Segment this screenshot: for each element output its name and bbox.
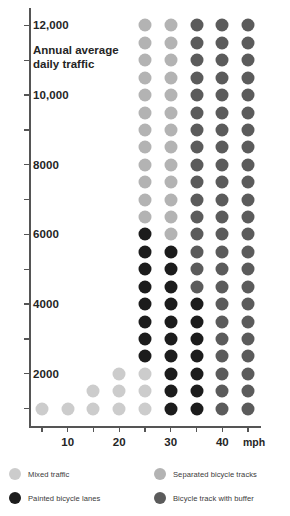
legend-item-bicycle-track-with-buffer: Bicycle track with buffer <box>154 492 254 504</box>
data-dot <box>216 367 229 380</box>
data-dot <box>139 36 152 49</box>
x-tick-label: 40 <box>216 436 229 448</box>
data-dot <box>190 211 203 224</box>
data-dot <box>216 89 229 102</box>
data-dot <box>190 19 203 32</box>
y-tick <box>24 164 30 165</box>
data-dot <box>190 298 203 311</box>
x-tick <box>67 426 68 432</box>
legend-label: Separated bicycle tracks <box>173 470 257 479</box>
data-dot <box>216 193 229 206</box>
data-dot <box>164 350 177 363</box>
data-dot <box>216 19 229 32</box>
data-dot <box>87 385 100 398</box>
data-dot <box>164 298 177 311</box>
data-dot <box>164 123 177 136</box>
data-dot <box>164 385 177 398</box>
data-dot <box>190 367 203 380</box>
data-dot <box>164 36 177 49</box>
data-dot <box>216 54 229 67</box>
data-dot <box>164 228 177 241</box>
data-dot <box>190 228 203 241</box>
y-tick <box>24 373 30 374</box>
data-dot <box>216 158 229 171</box>
data-dot <box>139 385 152 398</box>
x-tick <box>93 426 94 432</box>
legend-swatch-icon <box>9 468 21 480</box>
data-dot <box>113 385 126 398</box>
data-dot <box>242 315 255 328</box>
y-tick <box>24 269 30 270</box>
y-tick <box>24 303 30 304</box>
data-dot <box>113 367 126 380</box>
data-dot <box>242 280 255 293</box>
data-dot <box>216 176 229 189</box>
data-dot <box>242 211 255 224</box>
data-dot <box>190 123 203 136</box>
data-dot <box>242 176 255 189</box>
y-tick <box>24 234 30 235</box>
data-dot <box>164 193 177 206</box>
data-dot <box>139 211 152 224</box>
legend-swatch-icon <box>9 492 21 504</box>
data-dot <box>216 36 229 49</box>
data-dot <box>216 228 229 241</box>
data-dot <box>190 402 203 415</box>
data-dot <box>139 315 152 328</box>
data-dot <box>87 402 100 415</box>
data-dot <box>216 263 229 276</box>
x-tick <box>196 426 197 432</box>
data-dot <box>242 298 255 311</box>
data-dot <box>216 211 229 224</box>
data-dot <box>216 315 229 328</box>
data-dot <box>190 193 203 206</box>
data-dot <box>242 158 255 171</box>
data-dot <box>139 350 152 363</box>
data-dot <box>164 402 177 415</box>
x-tick-label: 30 <box>164 436 177 448</box>
data-dot <box>139 280 152 293</box>
data-dot <box>164 245 177 258</box>
data-dot <box>242 245 255 258</box>
data-dot <box>139 367 152 380</box>
data-dot <box>190 263 203 276</box>
data-dot <box>164 211 177 224</box>
data-dot <box>139 245 152 258</box>
data-dot <box>164 71 177 84</box>
data-dot <box>190 350 203 363</box>
data-dot <box>190 141 203 154</box>
data-dot <box>113 402 126 415</box>
data-dot <box>139 106 152 119</box>
data-dot <box>139 19 152 32</box>
data-dot <box>242 19 255 32</box>
data-dot <box>164 315 177 328</box>
data-dot <box>242 193 255 206</box>
data-dot <box>164 263 177 276</box>
data-dot <box>190 315 203 328</box>
legend-label: Bicycle track with buffer <box>173 494 254 503</box>
data-dot <box>139 141 152 154</box>
data-dot <box>242 385 255 398</box>
y-tick <box>24 60 30 61</box>
x-tick <box>222 426 223 432</box>
data-dot <box>164 367 177 380</box>
legend-item-separated-bicycle-tracks: Separated bicycle tracks <box>154 468 257 480</box>
y-tick <box>24 94 30 95</box>
legend-item-painted-bicycle-lanes: Painted bicycle lanes <box>9 492 100 504</box>
data-dot <box>139 193 152 206</box>
data-dot <box>164 176 177 189</box>
data-dot <box>190 280 203 293</box>
data-dot <box>216 71 229 84</box>
data-dot <box>61 402 74 415</box>
data-dot <box>164 141 177 154</box>
data-dot <box>242 228 255 241</box>
data-dot <box>190 385 203 398</box>
legend-swatch-icon <box>154 492 166 504</box>
data-dot <box>190 71 203 84</box>
y-tick-label: 6000 <box>33 228 59 240</box>
data-dot <box>242 350 255 363</box>
x-axis-unit-label: mph <box>243 436 265 448</box>
y-tick <box>24 338 30 339</box>
data-dot <box>139 71 152 84</box>
data-dot <box>242 89 255 102</box>
